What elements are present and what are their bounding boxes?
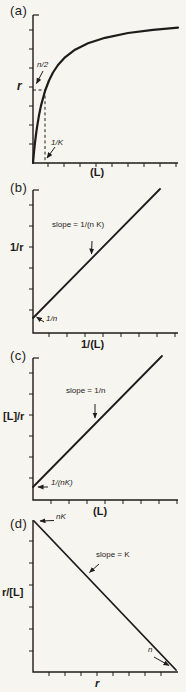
panel-c-y-axis-label: [L]/r [3,411,24,422]
panel-b-slope-label: slope = 1/(n K) [52,221,104,229]
panel-b-intercept-label: 1/n [46,315,57,323]
panel-d-y-intercept-label: nK [56,513,66,521]
panel-d-letter: (d) [10,517,27,530]
panel-d-x-axis-label: r [95,678,99,689]
panel-a-y-axis-label: r [17,80,22,92]
panel-a-letter: (a) [10,4,27,17]
panel-d-x-intercept-label: n [148,646,152,654]
panel-b-slope-arrow [92,241,93,254]
panel-a-x-axis-label: (L) [90,167,104,178]
panel-c-intercept-label: 1/(nK) [51,479,73,487]
panel-b-letter: (b) [10,181,27,194]
panel-c-letter: (c) [10,349,27,362]
panel-b-reciprocal-line [33,189,160,318]
panel-c-x-axis-label: (L) [93,506,107,517]
panel-c-hanes-line [33,356,162,487]
panel-a-half-saturation-label: n/2 [37,61,48,69]
panel-d-plot [29,520,178,676]
panel-d-y-axis-label: r/[L] [2,587,23,598]
panel-a-dissociation-label: 1/K [51,139,63,147]
panel-b-x-axis-label: 1/(L) [81,339,104,350]
panel-b-intercept-arrow [37,317,45,322]
panel-d-scatchard-line [34,521,176,670]
panel-d-nk-arrow [40,521,54,522]
panel-b-y-axis-label: 1/r [10,242,23,253]
panel-a-k-arrow [47,147,55,158]
panel-d-slope-label: slope = K [96,551,130,559]
panel-a-half-arrow [37,71,44,84]
panel-c-slope-label: slope = 1/n [66,387,105,395]
binding-plots-figure: (a) r n/2 1/K (L) (b) 1/r slope = 1/(n K… [0,0,186,692]
panel-b-axes [33,190,178,333]
panel-d-slope-arrow [90,564,100,573]
